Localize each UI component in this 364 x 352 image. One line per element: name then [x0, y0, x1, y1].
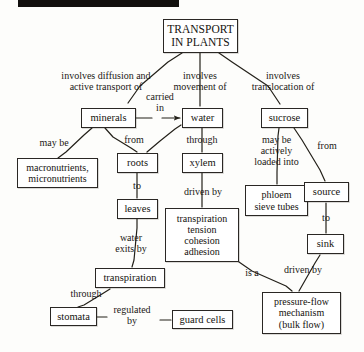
node-transport-in-plants[interactable]: TRANSPORT IN PLANTS — [163, 19, 238, 53]
node-roots[interactable]: roots — [117, 153, 158, 173]
link-label-regulated-by: regulated by — [103, 304, 161, 326]
link-label-through: through — [178, 134, 226, 145]
node-leaves[interactable]: leaves — [117, 199, 158, 219]
node-pressure-flow-mechanism[interactable]: pressure-flow mechanism (bulk flow) — [262, 292, 341, 334]
link-label-from-source: from — [311, 140, 343, 151]
node-transpiration[interactable]: transpiration — [95, 268, 165, 288]
node-minerals[interactable]: minerals — [81, 108, 136, 128]
link-label-from-roots: from — [118, 134, 150, 145]
node-phloem-sieve-tubes[interactable]: phloem sieve tubes — [245, 185, 308, 216]
link-label-water-exits-by: water exits by — [107, 232, 155, 254]
node-sucrose[interactable]: sucrose — [261, 108, 308, 128]
node-transpiration-tension-cohesion-adhesion[interactable]: transpiration tension cohesion adhesion — [165, 208, 239, 262]
link-label-to-leaves: to — [126, 180, 148, 191]
link-label-driven-by-ttca: driven by — [176, 186, 230, 197]
link-label-involves-movement-of: involves movement of — [163, 70, 237, 92]
link-label-driven-by-pressure-flow: driven by — [276, 264, 330, 275]
node-macronutrients-micronutrients[interactable]: macronutrients, micronutrients — [17, 158, 98, 188]
link-label-involves-translocation-of: involves translocation of — [241, 70, 325, 92]
node-stomata[interactable]: stomata — [50, 307, 97, 326]
edge-roots-to-water — [147, 125, 181, 152]
node-water[interactable]: water — [182, 108, 223, 128]
link-label-to-sink: to — [315, 212, 337, 223]
link-label-is-a: is a — [240, 267, 264, 278]
node-sink[interactable]: sink — [307, 234, 344, 254]
link-label-carried-in: carried in — [138, 91, 182, 113]
link-label-involves-diffusion-and-active-transport-of: involves diffusion and active transport … — [46, 70, 166, 92]
top-black-bar — [18, 0, 179, 7]
concept-map-canvas: TRANSPORT IN PLANTSmineralswatersucrosem… — [0, 0, 364, 352]
link-label-may-be-actively-loaded-into: may be actively loaded into — [245, 134, 308, 167]
node-guard-cells[interactable]: guard cells — [172, 310, 233, 329]
link-label-through-stomata: through — [62, 288, 110, 299]
node-xylem[interactable]: xylem — [182, 153, 223, 173]
node-source[interactable]: source — [304, 182, 349, 202]
link-label-may-be: may be — [32, 137, 76, 148]
